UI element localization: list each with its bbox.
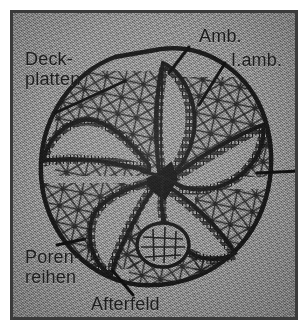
label-deckplatten: Deck- platten (25, 49, 80, 89)
figure-plate: Deck- platten Amb. I.amb. Poren- reihen … (0, 0, 308, 330)
label-iamb: I.amb. (231, 51, 282, 70)
label-amb: Amb. (199, 27, 242, 46)
leader-line-amb (169, 47, 189, 73)
plate-frame: Deck- platten Amb. I.amb. Poren- reihen … (10, 10, 298, 320)
periproct-afterfeld (137, 223, 189, 267)
label-afterfeld: Afterfeld (91, 295, 160, 314)
label-porenreihen: Poren- reihen (25, 247, 80, 287)
leader-line-right-stub (257, 171, 298, 173)
